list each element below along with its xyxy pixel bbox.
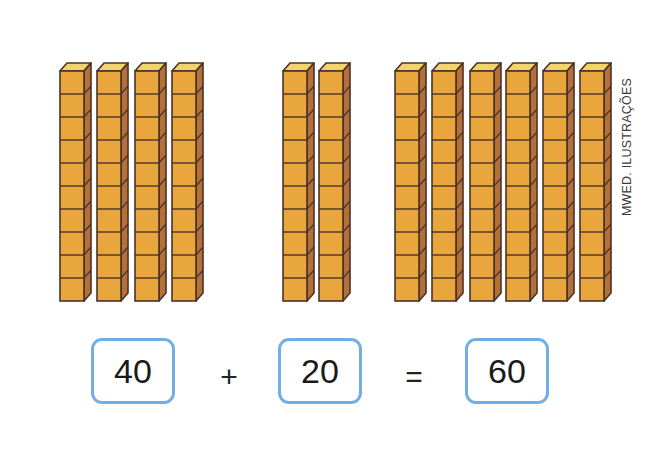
plus-sign: + (214, 362, 244, 392)
ten-rod (394, 62, 426, 302)
sum-box: 60 (465, 338, 549, 404)
addend1-value: 40 (114, 352, 152, 391)
credit-text: MWED. ILUSTRAÇÕES (620, 78, 634, 216)
addend2-box: 20 (278, 338, 362, 404)
ten-rod (431, 62, 463, 302)
ten-rod (96, 62, 128, 302)
ten-rod (134, 62, 166, 302)
ten-rod (171, 62, 203, 302)
ten-rod (469, 62, 501, 302)
ten-rod (318, 62, 350, 302)
addend2-value: 20 (301, 352, 339, 391)
addend1-box: 40 (91, 338, 175, 404)
ten-rod (59, 62, 91, 302)
ten-rod (542, 62, 574, 302)
equals-sign: = (399, 362, 429, 392)
ten-rod (505, 62, 537, 302)
ten-rod (579, 62, 611, 302)
sum-value: 60 (488, 352, 526, 391)
ten-rod (282, 62, 314, 302)
illustration-credit: MWED. ILUSTRAÇÕES (617, 62, 637, 232)
